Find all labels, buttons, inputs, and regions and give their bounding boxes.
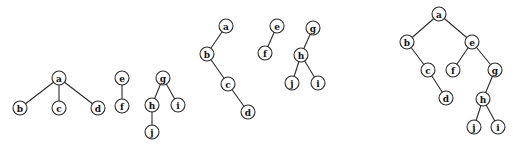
tree-node-c: c bbox=[421, 63, 435, 77]
group-converted-trees-edges bbox=[207, 26, 318, 112]
node-label: j bbox=[471, 123, 475, 133]
tree-node-a: a bbox=[432, 7, 446, 21]
tree-node-g: g bbox=[488, 63, 502, 77]
tree-node-e: e bbox=[465, 35, 479, 49]
nodes-layer: abcdefghijabcdefghjiabecfgdhji bbox=[13, 7, 505, 139]
node-label: a bbox=[436, 10, 442, 20]
node-label: j bbox=[289, 79, 293, 89]
node-label: e bbox=[119, 74, 125, 84]
node-label: b bbox=[404, 38, 410, 48]
tree-node-h: h bbox=[476, 92, 490, 106]
tree-node-j: j bbox=[285, 76, 299, 90]
node-label: h bbox=[149, 101, 156, 111]
node-label: c bbox=[56, 104, 62, 114]
tree-node-a: a bbox=[219, 19, 233, 33]
node-label: d bbox=[245, 108, 252, 118]
node-label: a bbox=[56, 74, 62, 84]
node-label: e bbox=[469, 38, 475, 48]
tree-node-f: f bbox=[446, 63, 460, 77]
tree-node-d: d bbox=[439, 91, 453, 105]
tree-node-j: j bbox=[145, 125, 159, 139]
node-label: e bbox=[274, 22, 280, 32]
tree-node-i: i bbox=[171, 98, 185, 112]
tree-node-f: f bbox=[115, 99, 129, 113]
node-label: g bbox=[492, 66, 499, 76]
node-label: i bbox=[496, 123, 500, 133]
node-label: h bbox=[298, 51, 305, 61]
node-label: c bbox=[225, 80, 231, 90]
tree-node-i: i bbox=[311, 76, 325, 90]
node-label: g bbox=[160, 74, 167, 84]
node-label: g bbox=[310, 24, 317, 34]
node-label: d bbox=[95, 104, 102, 114]
tree-node-e: e bbox=[115, 71, 129, 85]
tree-diagram: abcdefghijabcdefghjiabecfgdhji bbox=[0, 0, 517, 150]
node-label: b bbox=[204, 50, 210, 60]
node-label: c bbox=[425, 66, 431, 76]
node-label: a bbox=[223, 22, 229, 32]
tree-node-d: d bbox=[241, 105, 255, 119]
tree-node-a: a bbox=[52, 71, 66, 85]
tree-node-c: c bbox=[52, 101, 66, 115]
node-label: d bbox=[443, 94, 450, 104]
tree-node-e: e bbox=[270, 19, 284, 33]
tree-node-b: b bbox=[13, 101, 27, 115]
group-converted-trees: abcdefghji bbox=[200, 19, 325, 119]
tree-node-g: g bbox=[306, 21, 320, 35]
tree-node-c: c bbox=[221, 77, 235, 91]
tree-node-f: f bbox=[258, 46, 272, 60]
tree-node-g: g bbox=[156, 71, 170, 85]
tree-node-b: b bbox=[200, 47, 214, 61]
tree-node-j: j bbox=[467, 120, 481, 134]
tree-node-b: b bbox=[400, 35, 414, 49]
tree-node-i: i bbox=[491, 120, 505, 134]
tree-node-h: h bbox=[145, 98, 159, 112]
group-forest: abcdefghij bbox=[13, 71, 185, 139]
node-label: i bbox=[316, 79, 320, 89]
node-label: i bbox=[176, 101, 180, 111]
node-label: j bbox=[149, 128, 153, 138]
node-label: h bbox=[480, 95, 487, 105]
tree-node-h: h bbox=[294, 48, 308, 62]
node-label: b bbox=[17, 104, 23, 114]
tree-node-d: d bbox=[91, 101, 105, 115]
